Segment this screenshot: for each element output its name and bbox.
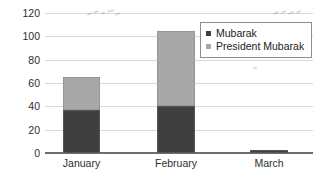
legend-label: Mubarak: [216, 27, 257, 40]
gridline-120: [45, 13, 313, 14]
bar-february[interactable]: [157, 31, 195, 154]
bar-segment-president-mubarak-february: [157, 31, 195, 107]
stacked-bar-chart: 120 100 80 60 40 20 0 January: [0, 0, 330, 180]
legend-item-president-mubarak[interactable]: President Mubarak: [206, 40, 304, 53]
y-axis-tick-label: 100: [2, 30, 40, 42]
y-axis-tick-label: 120: [2, 7, 40, 19]
bar-segment-mubarak-march: [250, 150, 288, 154]
bar-segment-mubarak-february: [157, 106, 195, 153]
y-axis-tick-label: 0: [2, 147, 40, 159]
y-axis-labels: 120 100 80 60 40 20 0: [0, 13, 40, 153]
y-axis-tick-label: 60: [2, 77, 40, 89]
y-axis-tick-label: 40: [2, 100, 40, 112]
y-axis-tick-label: 80: [2, 54, 40, 66]
legend-swatch-icon: [206, 44, 211, 49]
legend-swatch-icon: [206, 31, 211, 36]
bar-march[interactable]: [250, 150, 288, 154]
bar-segment-president-mubarak-january: [63, 77, 100, 110]
legend-label: President Mubarak: [216, 40, 304, 53]
bar-january[interactable]: [63, 77, 100, 153]
bar-segment-mubarak-january: [63, 110, 100, 153]
y-axis-tick-label: 20: [2, 124, 40, 136]
x-axis-tick-label-february: February: [155, 157, 197, 169]
legend-item-mubarak[interactable]: Mubarak: [206, 27, 304, 40]
x-axis-labels: January February March: [45, 157, 313, 175]
x-axis-tick-label-march: March: [254, 157, 283, 169]
x-axis-tick-label-january: January: [63, 157, 100, 169]
chart-legend: Mubarak President Mubarak: [200, 22, 312, 58]
